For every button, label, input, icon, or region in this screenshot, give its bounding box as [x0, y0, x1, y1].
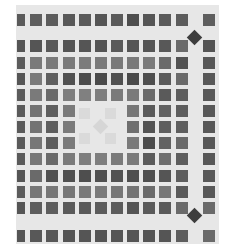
mosaic-tile: [111, 73, 123, 85]
mosaic-tile: [143, 202, 155, 214]
mosaic-tile: [63, 202, 75, 214]
mosaic-tile: [176, 153, 188, 165]
mosaic-tile: [159, 57, 171, 69]
mosaic-tile: [63, 57, 75, 69]
mosaic-tile: [17, 40, 25, 52]
mosaic-tile: [127, 153, 139, 165]
mosaic-tile: [159, 137, 171, 149]
mosaic-tile: [127, 230, 139, 242]
mosaic-tile: [127, 121, 139, 133]
mosaic-tile: [143, 186, 155, 198]
mosaic-tile: [111, 153, 123, 165]
mosaic-tile: [176, 105, 188, 117]
mosaic-tile: [159, 230, 171, 242]
mosaic-tile: [17, 202, 25, 214]
mosaic-tile: [17, 230, 25, 242]
mosaic-tile: [159, 105, 171, 117]
mosaic-tile: [63, 137, 75, 149]
mosaic-tile: [30, 153, 42, 165]
mosaic-tile: [79, 202, 91, 214]
mosaic-tile: [63, 170, 75, 182]
mosaic-tile: [203, 170, 215, 182]
mosaic-tile: [63, 89, 75, 101]
mosaic-tile: [79, 230, 91, 242]
mosaic-tile: [203, 121, 215, 133]
mosaic-tile: [95, 89, 107, 101]
mosaic-tile: [63, 186, 75, 198]
mosaic-tile: [143, 105, 155, 117]
mosaic-tile: [46, 230, 58, 242]
diamond-tile: [186, 207, 202, 223]
mosaic-tile: [79, 14, 91, 26]
diamond-tile: [92, 118, 108, 134]
mosaic-tile: [176, 186, 188, 198]
mosaic-tile: [46, 202, 58, 214]
mosaic-tile: [46, 137, 58, 149]
mosaic-tile: [111, 89, 123, 101]
mosaic-tile: [79, 40, 91, 52]
mosaic-tile: [143, 40, 155, 52]
mosaic-tile: [176, 202, 188, 214]
mosaic-tile: [159, 89, 171, 101]
mosaic-tile: [176, 121, 188, 133]
mosaic-tile: [111, 186, 123, 198]
mosaic-tile: [143, 153, 155, 165]
faint-tile: [105, 108, 116, 119]
mosaic-tile: [46, 73, 58, 85]
mosaic-tile: [63, 121, 75, 133]
diamond-tile: [186, 29, 202, 45]
mosaic-tile: [63, 14, 75, 26]
mosaic-tile: [17, 14, 25, 26]
faint-tile: [105, 133, 116, 144]
mosaic-tile: [203, 202, 215, 214]
mosaic-tile: [176, 73, 188, 85]
mosaic-tile: [46, 121, 58, 133]
mosaic-tile: [203, 230, 215, 242]
mosaic-tile: [176, 230, 188, 242]
mosaic-tile: [95, 202, 107, 214]
mosaic-tile: [63, 230, 75, 242]
mosaic-tile: [30, 14, 42, 26]
mosaic-tile: [63, 105, 75, 117]
mosaic-tile: [111, 40, 123, 52]
mosaic-tile: [95, 153, 107, 165]
mosaic-tile: [79, 73, 91, 85]
mosaic-tile: [30, 40, 42, 52]
mosaic-tile: [17, 153, 25, 165]
mosaic-tile: [127, 73, 139, 85]
mosaic-tile: [95, 40, 107, 52]
mosaic-tile: [159, 153, 171, 165]
mosaic-tile: [17, 137, 25, 149]
mosaic-tile: [95, 186, 107, 198]
mosaic-tile: [63, 73, 75, 85]
mosaic-tile: [143, 137, 155, 149]
mosaic-tile: [176, 170, 188, 182]
mosaic-tile: [111, 14, 123, 26]
mosaic-tile: [79, 170, 91, 182]
mosaic-tile: [143, 57, 155, 69]
mosaic-tile: [176, 89, 188, 101]
mosaic-tile: [111, 57, 123, 69]
mosaic-tile: [30, 57, 42, 69]
mosaic-tile: [95, 170, 107, 182]
mosaic-tile: [127, 40, 139, 52]
mosaic-tile: [127, 89, 139, 101]
mosaic-tile: [30, 73, 42, 85]
mosaic-panel: [16, 5, 219, 244]
mosaic-tile: [63, 40, 75, 52]
mosaic-tile: [127, 137, 139, 149]
mosaic-tile: [127, 14, 139, 26]
mosaic-tile: [127, 186, 139, 198]
mosaic-tile: [79, 153, 91, 165]
mosaic-tile: [30, 121, 42, 133]
mosaic-tile: [30, 89, 42, 101]
mosaic-tile: [127, 170, 139, 182]
mosaic-tile: [46, 40, 58, 52]
mosaic-tile: [30, 170, 42, 182]
mosaic-tile: [95, 73, 107, 85]
mosaic-tile: [143, 121, 155, 133]
mosaic-tile: [46, 105, 58, 117]
mosaic-tile: [30, 202, 42, 214]
mosaic-tile: [46, 170, 58, 182]
mosaic-tile: [79, 186, 91, 198]
